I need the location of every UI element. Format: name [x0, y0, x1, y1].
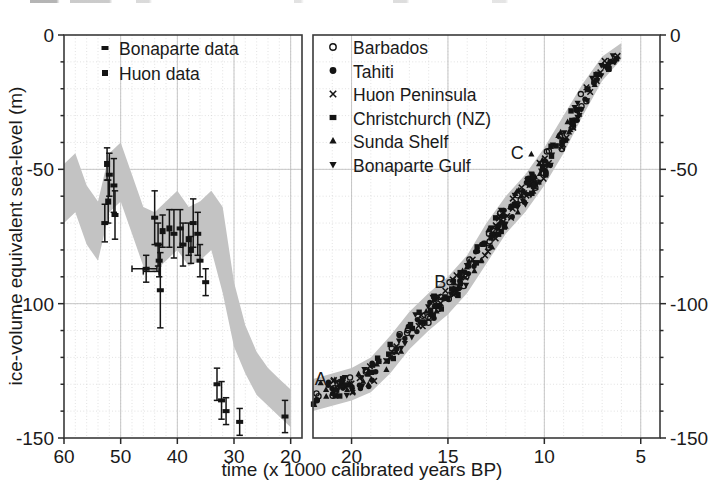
bonaparte-tick-marker	[110, 183, 117, 187]
annotations: ABC	[315, 143, 535, 389]
filled-circle-marker	[540, 165, 545, 170]
legend-label: Sunda Shelf	[353, 132, 448, 152]
filled-circle-marker	[473, 249, 478, 254]
filled-square-marker	[553, 143, 558, 148]
left-panel-legend: Bonaparte dataHuon data	[102, 39, 239, 84]
y-tick-label: -150	[670, 428, 708, 449]
filled-circle-marker	[441, 296, 446, 301]
bonaparte-tick-marker	[214, 382, 221, 386]
filled-circle-marker	[414, 329, 419, 334]
x-tick-label: 50	[110, 446, 131, 467]
huon-square-marker	[160, 228, 166, 234]
x-tick-label: 5	[635, 446, 646, 467]
filled-square-marker	[474, 244, 479, 249]
filled-square-marker	[474, 260, 479, 265]
filled-square-marker	[391, 356, 396, 361]
bonaparte-tick-marker	[218, 398, 225, 402]
annotation-c: C	[511, 143, 524, 163]
filled-circle-marker	[501, 208, 506, 213]
filled-square-marker	[525, 176, 530, 181]
y-axis-title: ice-volume equivalent sea-level (m)	[5, 87, 26, 386]
filled-circle-marker	[397, 333, 402, 338]
x-tick-label: 40	[167, 446, 188, 467]
bonaparte-tick-marker	[236, 420, 243, 424]
filled-circle-marker	[452, 286, 457, 291]
bonaparte-tick-marker	[197, 259, 204, 263]
filled-square-marker	[499, 229, 504, 234]
filled-square-marker	[559, 140, 564, 145]
bonaparte-tick-marker	[112, 213, 119, 217]
annotation-b: B	[434, 272, 446, 292]
legend-label: Bonaparte data	[119, 39, 239, 59]
filled-square-marker	[493, 215, 498, 220]
legend-label: Huon data	[119, 64, 200, 84]
triangle-down-marker	[329, 162, 336, 169]
scatter-points	[311, 53, 620, 407]
legend-label: Huon Peninsula	[353, 85, 477, 105]
y-tick-label: -50	[670, 159, 697, 180]
filled-circle-marker	[462, 270, 467, 275]
filled-circle-marker	[373, 369, 378, 374]
x-axis-title: time (x 1000 calibrated years BP)	[222, 459, 503, 480]
bonaparte-tick-marker	[156, 259, 163, 263]
filled-circle-marker	[330, 67, 337, 74]
filled-square-marker	[568, 108, 573, 113]
scan-artifact	[30, 0, 690, 3]
y-tick-label: -100	[670, 294, 708, 315]
y-tick-label: -150	[16, 428, 54, 449]
huon-square-marker	[104, 161, 110, 167]
bonaparte-tick-marker	[170, 232, 177, 236]
left-panel: 60504030200-50-100-150	[16, 25, 302, 467]
filled-square-marker	[531, 175, 536, 180]
cross-marker	[330, 91, 336, 97]
filled-square-marker	[376, 359, 381, 364]
y-tick-label: 0	[43, 25, 54, 46]
filled-square-marker	[408, 322, 413, 327]
x-tick-label: 10	[534, 446, 555, 467]
bonaparte-tick-marker	[282, 415, 289, 419]
filled-circle-marker	[338, 379, 343, 384]
annotation-a: A	[315, 369, 327, 389]
filled-square-marker	[370, 362, 375, 367]
filled-square-marker	[439, 306, 444, 311]
bonaparte-tick-marker	[151, 216, 158, 220]
bonaparte-tick-marker	[202, 280, 209, 284]
huon-square-marker	[188, 247, 194, 253]
open-circle-marker	[330, 44, 336, 50]
bonaparte-tick-marker	[102, 46, 109, 50]
bonaparte-tick-marker	[223, 409, 230, 413]
bonaparte-tick-marker	[180, 243, 187, 247]
y-axis: 0-50-100-150	[660, 25, 708, 449]
y-tick-label: 0	[670, 25, 681, 46]
legend-label: Bonaparte Gulf	[353, 156, 471, 176]
filled-square-marker	[330, 115, 337, 120]
filled-square-marker	[548, 144, 553, 149]
legend-label: Barbados	[353, 38, 428, 58]
filled-circle-marker	[520, 189, 525, 194]
right-panel-legend: BarbadosTahitiHuon PeninsulaChristchurch…	[329, 38, 491, 176]
legend-label: Christchurch (NZ)	[353, 109, 491, 129]
filled-square-marker	[543, 172, 548, 177]
bonaparte-tick-marker	[157, 288, 164, 292]
filled-circle-marker	[402, 336, 407, 341]
plot-canvas: 60504030200-50-100-150ABC20151050-50-100…	[0, 0, 724, 483]
filled-square-marker	[466, 263, 471, 268]
triangle-up-marker	[329, 137, 336, 144]
y-tick-label: -50	[27, 159, 54, 180]
filled-circle-marker	[594, 77, 599, 82]
bonaparte-tick-marker	[194, 232, 201, 236]
filled-square-marker	[428, 307, 433, 312]
annotation-marker	[528, 151, 534, 157]
legend-label: Tahiti	[353, 62, 394, 82]
filled-circle-marker	[542, 158, 547, 163]
x-tick-label: 60	[53, 446, 74, 467]
filled-circle-marker	[427, 300, 432, 305]
huon-square-marker	[102, 70, 108, 76]
sea-level-figure: 60504030200-50-100-150ABC20151050-50-100…	[0, 0, 724, 483]
filled-circle-marker	[574, 118, 579, 123]
huon-square-marker	[166, 225, 172, 231]
huon-square-marker	[105, 199, 111, 205]
